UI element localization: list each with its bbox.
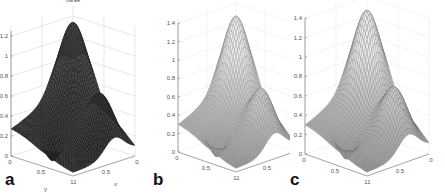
- y-tick-label: 0.5: [331, 168, 340, 174]
- panel-a: 00.20.40.60.811.200.5100.51xyfranke a: [0, 0, 148, 196]
- y-tick-label: 0: [8, 159, 12, 165]
- z-tick-label: 1: [299, 54, 303, 60]
- z-tick-label: 0.2: [167, 131, 176, 137]
- x-tick-label: 0.5: [263, 165, 272, 171]
- z-tick-label: 1.4: [167, 20, 176, 26]
- panel-label-a: a: [5, 170, 14, 190]
- x-axis-label: x: [114, 181, 117, 187]
- x-tick-label: 1: [367, 179, 371, 185]
- y-tick-label: 0: [175, 155, 179, 161]
- surface-mesh: [305, 10, 429, 172]
- z-tick-label: 1: [5, 53, 9, 59]
- surface-mesh: [178, 16, 290, 168]
- z-tick-label: 1.2: [294, 35, 303, 41]
- z-tick-label: 0.8: [167, 75, 176, 81]
- z-tick-label: 1.4: [294, 15, 303, 21]
- z-tick-label: 1.2: [167, 39, 176, 45]
- panel-b: 00.20.40.60.811.21.400.5100.51 b: [140, 0, 290, 196]
- plot-title: franke: [66, 0, 80, 3]
- z-tick-label: 0.8: [0, 73, 9, 79]
- z-tick-label: 1: [172, 57, 176, 63]
- z-tick-label: 0.4: [294, 112, 303, 118]
- x-tick-label: 0.5: [102, 169, 111, 175]
- surface-plot-b: 00.20.40.60.811.21.400.5100.51: [140, 0, 290, 196]
- z-tick-label: 0.6: [167, 94, 176, 100]
- y-tick-label: 0.5: [37, 169, 46, 175]
- z-tick-label: 0.4: [167, 112, 176, 118]
- z-tick-label: 1.2: [0, 33, 9, 39]
- panel-label-c: c: [290, 170, 299, 190]
- z-tick-label: 0.2: [0, 133, 9, 139]
- y-axis-label: y: [44, 186, 47, 192]
- panel-label-b: b: [153, 170, 163, 190]
- x-tick-label: 0.5: [396, 168, 405, 174]
- panel-c: 00.20.40.60.811.21.400.5100.51 c: [290, 0, 445, 196]
- y-tick-label: 0: [302, 157, 306, 163]
- x-tick-label: 1: [236, 175, 240, 181]
- x-tick-label: 0: [135, 159, 139, 165]
- y-tick-label: 0.5: [202, 165, 211, 171]
- z-tick-label: 0.6: [0, 93, 9, 99]
- z-tick-label: 0.2: [294, 132, 303, 138]
- surface-plot-a: 00.20.40.60.811.200.5100.51xyfranke: [0, 0, 148, 196]
- z-tick-label: 0.4: [0, 113, 9, 119]
- z-tick-label: 0.6: [294, 93, 303, 99]
- surface-plot-c: 00.20.40.60.811.21.400.5100.51: [290, 0, 445, 196]
- x-tick-label: 1: [73, 179, 77, 185]
- z-tick-label: 0.8: [294, 73, 303, 79]
- x-tick-label: 0: [429, 157, 433, 163]
